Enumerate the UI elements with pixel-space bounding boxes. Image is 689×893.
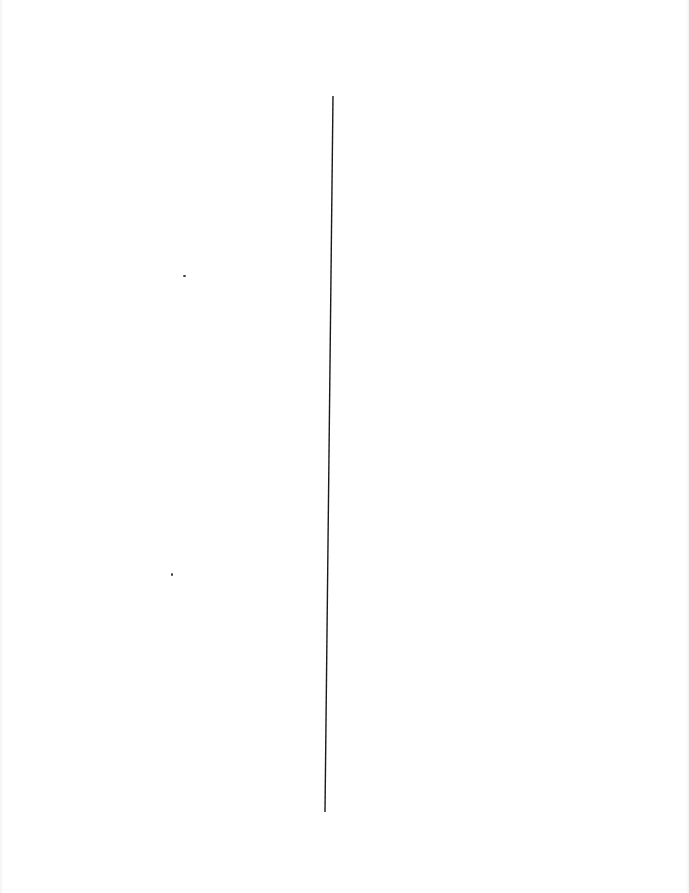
vertical-divider-line — [0, 0, 689, 893]
scanned-page — [0, 0, 689, 893]
scan-speck — [183, 275, 186, 277]
scan-speck — [171, 573, 173, 576]
